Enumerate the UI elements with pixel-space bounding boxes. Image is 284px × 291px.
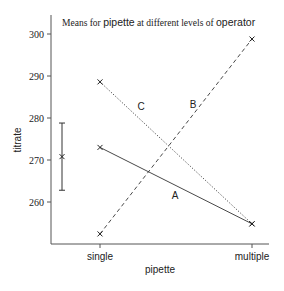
error-bar [59,123,65,190]
series-C [98,79,255,226]
x-tick-label: single [87,251,114,262]
interaction-plot: Means for pipette at different levels of… [0,0,284,291]
series-labels: ABC [137,99,196,201]
title-part: Means for [62,18,103,28]
x-axis-ticks: singlemultiple [87,244,270,262]
title-part: at different levels of [135,18,216,28]
y-axis-ticks: 260270280290300 [29,29,51,208]
x-marker [250,221,255,226]
x-tick-label: multiple [235,251,270,262]
x-marker [98,231,103,236]
series-label-C: C [137,101,144,112]
series-A [98,145,255,226]
series-label-A: A [172,190,179,201]
y-tick-label: 270 [29,155,44,166]
x-marker [98,79,103,84]
title-part: pipette [103,16,135,28]
y-axis-label: titrate [12,127,23,152]
y-tick-label: 300 [29,29,44,40]
x-marker [98,145,103,150]
x-marker [250,37,255,42]
y-tick-label: 260 [29,197,44,208]
y-tick-label: 280 [29,113,44,124]
title-part: operator [216,16,256,28]
x-axis-label: pipette [145,264,175,275]
y-tick-label: 290 [29,71,44,82]
series-B [98,37,255,237]
chart-title: Means for pipette at different levels of… [62,16,256,28]
series-lines [98,37,255,237]
series-label-B: B [190,99,197,110]
